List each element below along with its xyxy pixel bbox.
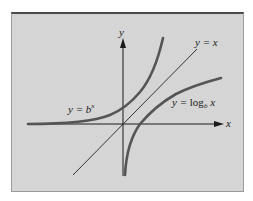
x-axis-arrow-icon [214, 121, 224, 127]
y-axis-label-text: y [119, 26, 124, 38]
logarithm-label-func: log [190, 96, 204, 108]
graph-canvas [0, 0, 253, 201]
y-axis-label: y [119, 27, 124, 38]
x-axis-label: x [226, 118, 231, 129]
logarithm-label-prefix: y = [172, 96, 190, 108]
y-axis-arrow-icon [120, 38, 126, 48]
exponential-label-superscript: x [91, 102, 94, 110]
exponential-curve [28, 38, 163, 124]
exponential-label: y = bx [68, 103, 94, 115]
logarithm-label-suffix: x [207, 96, 215, 108]
logarithm-label: y = logb x [172, 97, 215, 110]
x-axis-label-text: x [226, 117, 231, 129]
identity-label-text: y = x [195, 36, 218, 48]
exponential-label-text: y = b [68, 103, 91, 115]
identity-label: y = x [195, 37, 218, 48]
